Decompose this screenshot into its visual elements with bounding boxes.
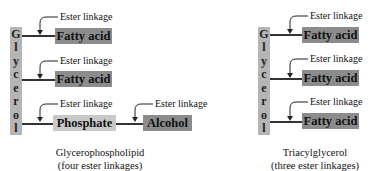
alcohol-box: Alcohol <box>143 115 192 131</box>
ester-linkage-label: Ester linkage <box>60 98 112 109</box>
bond-line <box>270 78 302 80</box>
glycerol-letter: G <box>11 28 20 40</box>
ester-linkage-label: Ester linkage <box>60 11 112 22</box>
ester-linkage-arrow-icon <box>0 0 1 1</box>
ester-linkage-label: Ester linkage <box>310 53 362 64</box>
caption-title: Triacylglycerol <box>255 146 374 159</box>
glycerol-letter: o <box>13 109 19 121</box>
bond-line <box>270 34 302 36</box>
fatty-acid-box: Fatty acid <box>55 71 112 87</box>
bond-line <box>116 123 143 125</box>
ester-linkage-label: Ester linkage <box>155 98 207 109</box>
phosphate-box: Phosphate <box>53 115 116 131</box>
fatty-acid-box: Fatty acid <box>55 28 112 44</box>
caption-triacylglycerol: Triacylglycerol (three ester linkages) <box>255 146 374 171</box>
glycerol-letter: y <box>261 55 267 67</box>
fatty-acid-box: Fatty acid <box>302 70 359 86</box>
caption-subtitle: (three ester linkages) <box>255 159 374 171</box>
bond-line <box>22 123 53 125</box>
glycerol-letter: e <box>261 82 266 94</box>
caption-subtitle: (four ester linkages) <box>40 159 160 171</box>
glycerol-letter: c <box>261 68 266 80</box>
glycerol-letter: r <box>13 95 18 107</box>
ester-linkage-label: Ester linkage <box>310 96 362 107</box>
caption-title: Glycerophospholipid <box>40 146 160 159</box>
glycerol-letter: G <box>259 28 268 40</box>
glycerol-letter: r <box>261 95 266 107</box>
glycerol-letter: l <box>14 122 17 134</box>
glycerol-backbone-right: G l y c e r o l <box>258 27 270 135</box>
bond-line <box>270 121 302 123</box>
fatty-acid-box: Fatty acid <box>302 113 359 129</box>
fatty-acid-box: Fatty acid <box>302 27 359 43</box>
glycerol-backbone-left: G l y c e r o l <box>10 27 22 135</box>
bond-line <box>22 35 55 37</box>
ester-linkage-label: Ester linkage <box>60 55 112 66</box>
glycerol-letter: l <box>262 122 265 134</box>
glycerol-letter: l <box>14 41 17 53</box>
ester-linkage-label: Ester linkage <box>310 10 362 21</box>
glycerol-letter: l <box>262 41 265 53</box>
glycerol-letter: o <box>261 109 267 121</box>
glycerol-letter: c <box>13 68 18 80</box>
caption-glycerophospholipid: Glycerophospholipid (four ester linkages… <box>40 146 160 171</box>
bond-line <box>22 79 55 81</box>
glycerol-letter: y <box>13 55 19 67</box>
glycerol-letter: e <box>13 82 18 94</box>
